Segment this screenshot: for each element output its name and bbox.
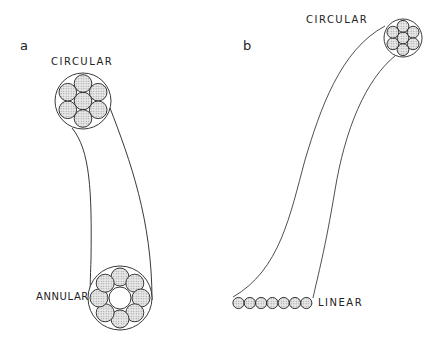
panel-a-label: a	[20, 38, 28, 53]
panel-b-circular-end	[384, 19, 422, 57]
panel-a-annular-end	[88, 266, 152, 330]
panel-b-bundle	[233, 26, 396, 298]
panel-a-circular-end	[55, 73, 111, 129]
panel-b-label: b	[243, 38, 251, 53]
panel-a-bottom-label: ANNULAR	[36, 291, 89, 302]
panel-b-bottom-label: LINEAR	[318, 297, 363, 308]
panel-b-top-label: CIRCULAR	[306, 14, 368, 25]
panel-b-linear-end	[233, 297, 312, 308]
panel-a-top-label: CIRCULAR	[51, 56, 113, 67]
